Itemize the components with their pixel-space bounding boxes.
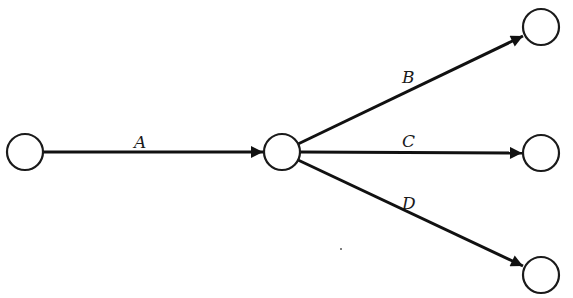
node-end-top	[523, 9, 559, 45]
edge-label-c: C	[402, 131, 415, 151]
edge-c-arrow	[300, 152, 522, 153]
node-end-middle	[523, 135, 559, 171]
node-start	[7, 134, 43, 170]
edge-label-a: A	[132, 132, 146, 152]
edge-label-d: D	[401, 193, 416, 213]
network-diagram: A B C D	[0, 0, 573, 298]
edge-b-arrow	[298, 36, 523, 144]
edge-label-b: B	[401, 67, 415, 87]
scan-speck	[340, 248, 342, 250]
edge-d-arrow	[298, 160, 523, 266]
node-end-bottom	[523, 257, 559, 293]
node-junction	[264, 134, 300, 170]
